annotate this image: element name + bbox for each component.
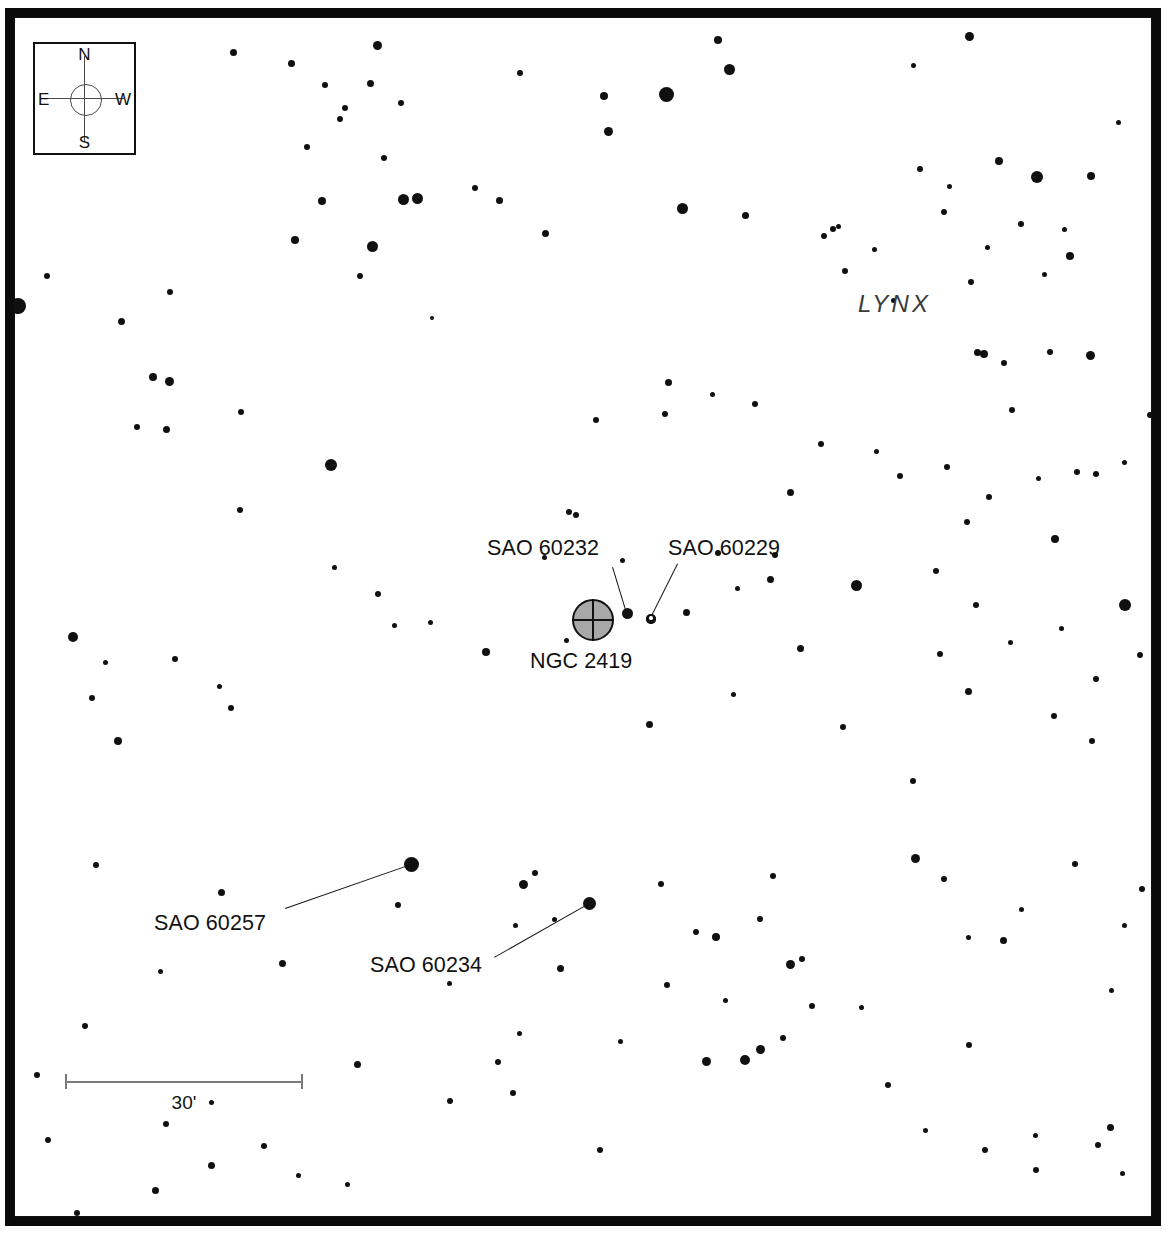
star-marker — [1074, 469, 1080, 475]
star-marker — [770, 873, 776, 879]
star-marker — [517, 70, 523, 76]
cluster-cross-vertical — [592, 599, 594, 641]
star-marker — [208, 1162, 215, 1169]
star-marker — [517, 1031, 522, 1036]
star-marker — [974, 349, 981, 356]
star-marker — [1000, 937, 1007, 944]
star-marker — [702, 1057, 711, 1066]
star-marker — [1109, 988, 1114, 993]
star-marker — [1042, 272, 1047, 277]
star-marker — [158, 969, 163, 974]
star-marker — [238, 409, 244, 415]
star-marker — [1072, 861, 1078, 867]
star-marker — [1001, 360, 1007, 366]
star-marker — [1018, 221, 1024, 227]
star-marker — [513, 923, 518, 928]
star-marker — [973, 602, 979, 608]
star-marker — [664, 982, 670, 988]
star-marker — [1095, 1142, 1101, 1148]
star-marker — [600, 92, 608, 100]
star-marker — [965, 688, 972, 695]
star-chart-root: NGC 2419SAO 60232SAO 60229SAO 60257SAO 6… — [0, 0, 1174, 1247]
star-marker — [1089, 738, 1095, 744]
star-marker — [618, 1039, 623, 1044]
star-marker — [941, 876, 947, 882]
star-marker — [114, 737, 122, 745]
star-marker — [1139, 886, 1145, 892]
star-marker — [1036, 476, 1041, 481]
star-marker — [45, 1137, 51, 1143]
star-marker — [941, 209, 947, 215]
star-marker — [472, 185, 478, 191]
star-marker — [152, 1187, 159, 1194]
star-marker — [947, 184, 952, 189]
star-marker — [367, 80, 374, 87]
star-marker — [767, 576, 774, 583]
star-marker — [1116, 120, 1121, 125]
star-marker — [542, 230, 549, 237]
star-marker — [1119, 599, 1131, 611]
star-marker — [447, 1098, 453, 1104]
star-marker — [332, 565, 337, 570]
star-marker — [1086, 351, 1095, 360]
star-marker — [1008, 640, 1013, 645]
star-marker — [712, 933, 720, 941]
star-marker — [658, 881, 664, 887]
object-label-ngc2419: NGC 2419 — [530, 651, 632, 673]
star-marker — [646, 721, 653, 728]
star-marker — [1107, 1124, 1114, 1131]
star-marker — [398, 100, 404, 106]
star-marker — [1033, 1133, 1038, 1138]
star-marker — [662, 411, 668, 417]
star-marker — [851, 580, 862, 591]
star-marker — [923, 1128, 928, 1133]
star-marker — [430, 316, 434, 320]
star-marker — [731, 692, 736, 697]
star-marker — [218, 889, 225, 896]
star-marker — [325, 459, 337, 471]
star-marker — [357, 273, 363, 279]
star-marker — [288, 60, 295, 67]
star-marker — [885, 1082, 891, 1088]
star-marker — [840, 724, 846, 730]
star-marker — [787, 489, 794, 496]
star-marker — [714, 36, 722, 44]
star-marker — [965, 32, 974, 41]
star-marker — [149, 373, 157, 381]
star-marker — [495, 1059, 501, 1065]
object-label-sao60232: SAO 60232 — [487, 538, 599, 560]
star-marker — [966, 935, 971, 940]
star-marker — [859, 1005, 864, 1010]
star-marker — [1122, 460, 1127, 465]
star-marker — [373, 41, 382, 50]
star-marker — [604, 127, 613, 136]
star-marker — [15, 298, 26, 314]
star-marker — [304, 144, 310, 150]
star-marker — [786, 960, 795, 969]
star-marker — [809, 1003, 815, 1009]
compass-rose: N S E W — [33, 42, 136, 155]
star-marker — [557, 965, 564, 972]
star-marker — [842, 268, 848, 274]
star-marker — [911, 854, 920, 863]
star-marker — [134, 424, 140, 430]
star-marker — [230, 49, 237, 56]
star-marker — [1066, 252, 1074, 260]
star-marker — [597, 1147, 603, 1153]
star-marker — [345, 1182, 350, 1187]
star-marker — [620, 558, 625, 563]
star-marker — [296, 1173, 301, 1178]
star-marker — [742, 212, 749, 219]
star-marker — [103, 660, 108, 665]
star-marker — [723, 998, 728, 1003]
scale-bar — [65, 1081, 303, 1083]
star-marker — [237, 507, 243, 513]
star-marker — [68, 632, 78, 642]
star-marker — [482, 648, 490, 656]
star-marker — [342, 105, 348, 111]
star-marker — [874, 449, 879, 454]
star-marker — [395, 902, 401, 908]
star-marker — [510, 1090, 516, 1096]
star-marker — [375, 591, 381, 597]
globular-cluster-symbol-ngc2419 — [572, 599, 614, 641]
